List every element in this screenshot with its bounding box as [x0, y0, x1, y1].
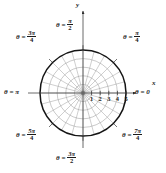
radial-tick-label-4: 4 [114, 96, 120, 102]
angle-label-pi-over-4: θ = π 4 [123, 30, 140, 44]
angle-label-3pi-over-2: θ = 3π 2 [56, 151, 76, 165]
angle-label-prefix: θ = [123, 33, 132, 41]
fraction-pi-over-4: π 4 [134, 30, 140, 44]
fraction-3pi-over-4: 3π 4 [27, 30, 36, 44]
fraction-denominator: 2 [67, 25, 73, 32]
y-axis-label: y [76, 2, 79, 9]
polar-grid-plot [0, 0, 166, 173]
angle-label-prefix: θ = [16, 131, 25, 139]
angle-label-pi: θ = π [4, 89, 19, 96]
radial-tick-label-2: 2 [97, 96, 103, 102]
outer-tick-45 [113, 59, 117, 63]
angle-label-zero: θ = 0 [135, 89, 150, 96]
angle-label-value: 0 [146, 88, 150, 96]
angle-label-7pi-over-4: θ = 7π 4 [122, 128, 142, 142]
angle-label-prefix: θ = [122, 131, 131, 139]
angle-label-prefix: θ = [135, 88, 144, 96]
angle-label-prefix: θ = [4, 88, 13, 96]
radial-tick-label-1: 1 [89, 96, 95, 102]
fraction-denominator: 4 [133, 135, 142, 142]
fraction-denominator: 4 [27, 37, 36, 44]
angle-label-pi-over-2: θ = π 2 [56, 18, 73, 32]
angle-label-5pi-over-4: θ = 5π 4 [16, 128, 36, 142]
fraction-7pi-over-4: 7π 4 [133, 128, 142, 142]
outer-tick-225 [49, 123, 53, 127]
fraction-3pi-over-2: 3π 2 [67, 151, 76, 165]
angle-label-prefix: θ = [56, 21, 65, 29]
angle-label-prefix: θ = [16, 33, 25, 41]
polar-coordinate-figure: 1 2 3 4 5 y x θ = π 2 θ = 3π 4 θ = π 4 θ… [0, 0, 166, 173]
x-axis-label: x [152, 80, 156, 87]
radial-tick-labels: 1 2 3 4 5 [0, 96, 166, 105]
angle-label-3pi-over-4: θ = 3π 4 [16, 30, 36, 44]
outer-tick-315 [113, 123, 117, 127]
outer-tick-135 [49, 59, 53, 63]
fraction-denominator: 4 [134, 37, 140, 44]
fraction-pi-over-2: π 2 [67, 18, 73, 32]
angle-label-prefix: θ = [56, 154, 65, 162]
radial-tick-label-3: 3 [106, 96, 112, 102]
pole-origin [81, 91, 85, 95]
fraction-denominator: 4 [27, 135, 36, 142]
fraction-5pi-over-4: 5π 4 [27, 128, 36, 142]
fraction-denominator: 2 [67, 158, 76, 165]
angle-label-value: π [15, 88, 19, 96]
radial-tick-label-5: 5 [123, 96, 129, 102]
